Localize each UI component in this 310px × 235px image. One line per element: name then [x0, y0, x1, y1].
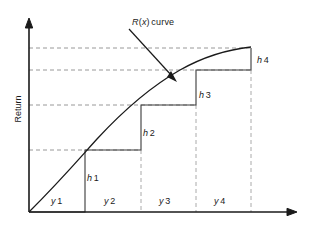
- x-axis-arrowhead: [287, 208, 297, 215]
- h2-index: 2: [148, 128, 155, 138]
- callout-r-symbol: R: [132, 17, 139, 27]
- curve-callout-arrow: [129, 29, 177, 82]
- step-width-label-y4: y4: [214, 196, 225, 206]
- y1-index: 1: [56, 196, 63, 206]
- y2-symbol: y: [104, 196, 109, 206]
- y4-index: 4: [219, 196, 226, 206]
- staircase-approximation: [29, 48, 251, 212]
- step-height-label-h1: h1: [87, 173, 99, 183]
- y2-index: 2: [109, 196, 116, 206]
- h4-index: 4: [262, 55, 269, 65]
- return-curve-figure: Return R(x)curve h1 h2 h3 h4 y1 y2 y3 y4: [0, 0, 310, 235]
- step-height-label-h2: h2: [143, 128, 155, 138]
- y1-symbol: y: [51, 196, 56, 206]
- dashed-gridlines: [29, 48, 251, 150]
- rx-curve-callout-label: R(x)curve: [132, 17, 174, 27]
- y3-symbol: y: [159, 196, 164, 206]
- h3-index: 3: [204, 90, 211, 100]
- callout-arrow-shaft: [129, 29, 172, 76]
- y-axis-label: Return: [13, 79, 23, 139]
- step-width-label-y1: y1: [51, 196, 62, 206]
- callout-suffix: curve: [150, 17, 175, 27]
- y3-index: 3: [164, 196, 171, 206]
- step-width-label-y2: y2: [104, 196, 115, 206]
- rx-curve-path: [29, 47, 251, 212]
- step-height-label-h3: h3: [199, 90, 211, 100]
- staircase-outline: [29, 48, 251, 212]
- h1-index: 1: [92, 173, 99, 183]
- return-curve: [29, 47, 251, 212]
- step-width-label-y3: y3: [159, 196, 170, 206]
- step-height-label-h4: h4: [257, 55, 269, 65]
- y4-symbol: y: [214, 196, 219, 206]
- y-axis-arrowhead: [25, 18, 32, 28]
- figure-canvas: [0, 0, 310, 235]
